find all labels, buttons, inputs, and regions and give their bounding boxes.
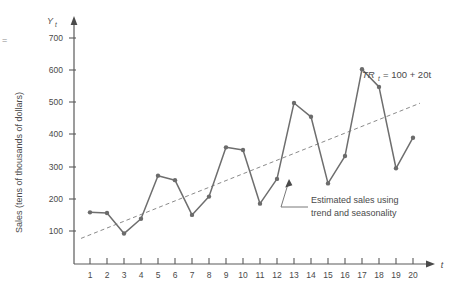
x-tick-label: 18 bbox=[374, 270, 384, 280]
x-tick-label: 15 bbox=[323, 270, 333, 280]
x-tick-label: 10 bbox=[238, 270, 248, 280]
y-axis-tick-labels: 700 600 500 400 300 200 100 bbox=[49, 33, 63, 236]
y-tick-label: 700 bbox=[49, 33, 63, 43]
x-tick-label: 14 bbox=[306, 270, 316, 280]
x-axis-tick-labels: 1 2 3 4 5 6 7 8 9 10 11 12 13 14 15 16 1… bbox=[88, 270, 418, 280]
sales-data-point bbox=[105, 211, 109, 215]
x-tick-label: 11 bbox=[256, 270, 265, 280]
sales-data-point bbox=[275, 177, 279, 181]
x-tick-label: 9 bbox=[224, 270, 229, 280]
sales-data-point bbox=[258, 201, 262, 205]
x-tick-label: 1 bbox=[88, 270, 93, 280]
y-tick-label: 500 bbox=[49, 97, 63, 107]
y-axis-symbol: Y t bbox=[47, 16, 58, 28]
trend-equation-prefix: TR bbox=[362, 69, 375, 80]
x-tick-label: 12 bbox=[272, 270, 282, 280]
sales-data-point bbox=[377, 85, 381, 89]
trend-equation-subscript: t bbox=[378, 75, 381, 82]
x-tick-label: 20 bbox=[408, 270, 418, 280]
x-tick-label: 7 bbox=[190, 270, 195, 280]
chart-figure: 700 600 500 400 300 200 100 Y t Sales (t… bbox=[0, 0, 457, 292]
x-tick-label: 19 bbox=[391, 270, 401, 280]
callout-arrowhead bbox=[285, 179, 292, 187]
x-tick-label: 4 bbox=[139, 270, 144, 280]
y-tick-label: 600 bbox=[49, 65, 63, 75]
x-axis-symbol: t bbox=[441, 260, 444, 270]
x-axis bbox=[74, 261, 435, 268]
sales-data-point bbox=[326, 181, 330, 185]
x-tick-label: 16 bbox=[340, 270, 350, 280]
callout-leader-line bbox=[281, 184, 308, 207]
sales-data-point bbox=[156, 173, 160, 177]
x-tick-label: 13 bbox=[289, 270, 299, 280]
sales-data-point bbox=[241, 148, 245, 152]
x-tick-label: 5 bbox=[156, 270, 161, 280]
series-callout-annotation: Estimated sales using trend and seasonal… bbox=[281, 179, 399, 218]
sales-data-point bbox=[190, 213, 194, 217]
sales-data-point bbox=[88, 210, 92, 214]
y-axis-arrowhead bbox=[71, 16, 78, 25]
sales-data-point bbox=[343, 154, 347, 158]
trend-equation-suffix: = 100 + 20t bbox=[383, 69, 431, 80]
y-tick-label: 200 bbox=[49, 194, 63, 204]
sales-data-point bbox=[139, 217, 143, 221]
sales-data-point bbox=[224, 145, 228, 149]
x-tick-label: 17 bbox=[357, 270, 367, 280]
svg-text:t: t bbox=[55, 21, 58, 28]
sales-data-point bbox=[173, 178, 177, 182]
sales-data-point bbox=[394, 166, 398, 170]
x-tick-label: 2 bbox=[105, 270, 110, 280]
x-tick-label: 6 bbox=[173, 270, 178, 280]
margin-mark: = bbox=[2, 35, 7, 45]
y-tick-label: 300 bbox=[49, 162, 63, 172]
y-tick-label: 100 bbox=[49, 226, 63, 236]
sales-data-point bbox=[292, 101, 296, 105]
sales-data-point bbox=[207, 194, 211, 198]
x-tick-label: 8 bbox=[207, 270, 212, 280]
sales-data-point bbox=[122, 231, 126, 235]
sales-data-point bbox=[411, 136, 415, 140]
y-axis-title: Sales (tens of thousands of dollars) bbox=[14, 92, 24, 233]
x-tick-label: 3 bbox=[122, 270, 127, 280]
y-tick-label: 400 bbox=[49, 129, 63, 139]
sales-seasonality-line-chart: 700 600 500 400 300 200 100 Y t Sales (t… bbox=[0, 0, 457, 292]
callout-text-line-2: trend and seasonality bbox=[311, 208, 397, 218]
x-axis-arrowhead bbox=[426, 261, 435, 268]
callout-text-line-1: Estimated sales using bbox=[311, 195, 399, 205]
x-axis-ticks bbox=[90, 258, 413, 264]
trend-line-series bbox=[81, 103, 420, 238]
svg-text:Y: Y bbox=[47, 16, 54, 26]
y-axis bbox=[71, 16, 78, 264]
y-axis-ticks bbox=[69, 38, 76, 231]
sales-data-point bbox=[309, 115, 313, 119]
